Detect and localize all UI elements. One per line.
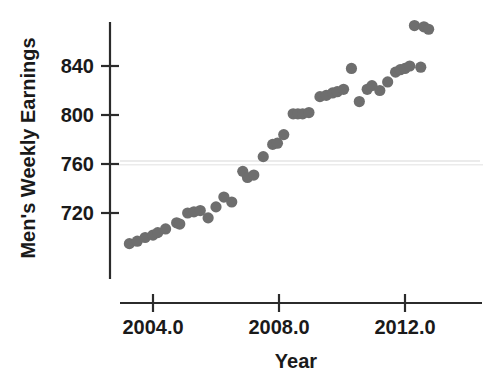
data-point — [278, 129, 289, 140]
data-point — [346, 63, 357, 74]
data-point — [258, 151, 269, 162]
y-tick-label-800: 800 — [61, 104, 94, 126]
data-point — [354, 96, 365, 107]
data-point — [409, 20, 420, 31]
y-tick-label-720: 720 — [61, 202, 94, 224]
x-tick-label-2008: 2008.0 — [248, 316, 309, 338]
x-axis-title: Year — [275, 350, 317, 372]
x-tick-label-2004: 2004.0 — [122, 316, 183, 338]
data-point — [423, 24, 434, 35]
x-tick-label-2012: 2012.0 — [374, 316, 435, 338]
data-point — [210, 201, 221, 212]
plot-canvas: 840 800 760 720 Men's Weekly Earnings 20… — [0, 0, 491, 387]
data-point — [374, 85, 385, 96]
data-point — [303, 107, 314, 118]
y-tick-label-760: 760 — [61, 153, 94, 175]
y-axis-title: Men's Weekly Earnings — [17, 37, 39, 258]
scatter-plot-figure: 840 800 760 720 Men's Weekly Earnings 20… — [0, 0, 491, 387]
x-axis-group: 2004.0 2008.0 2012.0 Year — [120, 294, 482, 372]
data-point — [174, 218, 185, 229]
data-point — [160, 223, 171, 234]
data-points-layer — [124, 20, 434, 249]
data-point — [404, 60, 415, 71]
data-point — [382, 76, 393, 87]
data-point — [338, 84, 349, 95]
data-point — [226, 196, 237, 207]
data-point — [203, 212, 214, 223]
data-point — [248, 169, 259, 180]
y-tick-label-840: 840 — [61, 55, 94, 77]
scan-artifacts — [118, 160, 483, 166]
y-axis-group: 840 800 760 720 Men's Weekly Earnings — [17, 22, 119, 279]
data-point — [415, 62, 426, 73]
